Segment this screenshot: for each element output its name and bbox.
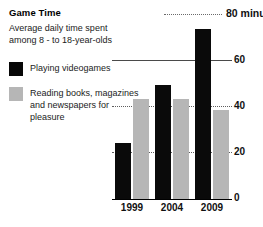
x-tick-label-1999: 1999	[112, 202, 152, 213]
x-tick-label-2009: 2009	[192, 202, 232, 213]
legend-label-videogames: Playing videogames	[30, 62, 111, 74]
bar-reading-2009	[213, 110, 229, 198]
bar-group-2009	[192, 14, 232, 199]
x-axis-baseline	[112, 199, 232, 201]
y-tick-label-60: 60	[234, 54, 245, 65]
bar-videogames-1999	[115, 143, 131, 199]
x-tick-label-2004: 2004	[152, 202, 192, 213]
y-tick-label-40: 40	[234, 100, 245, 111]
chart-title: Game Time	[9, 7, 61, 18]
bar-group-2004	[152, 14, 192, 199]
bar-videogames-2009	[195, 29, 211, 199]
y-tick-label-20: 20	[234, 146, 245, 157]
y-tick-label-0: 0	[234, 192, 240, 203]
bar-reading-1999	[133, 99, 149, 199]
infographic-panel: Game Time Average daily time spent among…	[0, 0, 263, 227]
bar-videogames-2004	[155, 85, 171, 199]
bar-group-1999	[112, 14, 152, 199]
x-axis-labels: 1999 2004 2009	[112, 202, 232, 213]
bar-reading-2004	[173, 99, 189, 199]
bar-groups	[112, 14, 232, 199]
chart-plot-area: 80 minutes 60 40 20	[112, 14, 232, 200]
legend-swatch-videogames-icon	[9, 62, 23, 76]
legend-swatch-reading-icon	[9, 87, 23, 101]
